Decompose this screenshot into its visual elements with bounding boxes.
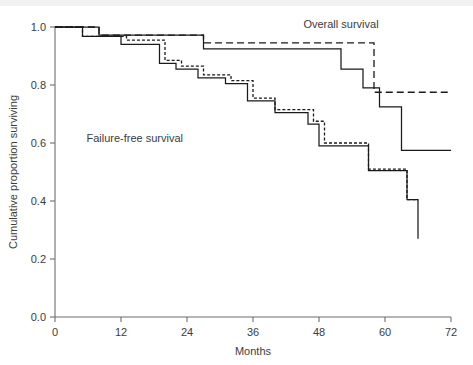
y-tick-label: 0.8: [31, 79, 46, 91]
figure-top-band: [0, 0, 473, 6]
x-tick-label: 12: [115, 326, 127, 338]
x-tick-label: 24: [181, 326, 193, 338]
x-tick-label: 60: [379, 326, 391, 338]
y-tick-label: 0.4: [31, 195, 46, 207]
y-tick-label: 0.2: [31, 253, 46, 265]
x-tick-label: 36: [247, 326, 259, 338]
y-tick-label: 0.0: [31, 311, 46, 323]
x-tick-label: 0: [52, 326, 58, 338]
x-axis-title: Months: [235, 345, 272, 357]
overall-survival-label: Overall survival: [303, 18, 378, 30]
series-line-failure-free-dashed: [55, 27, 418, 200]
y-tick-label: 0.6: [31, 137, 46, 149]
y-tick-label: 1.0: [31, 21, 46, 33]
survival-chart-figure: 0.00.20.40.60.81.00122436486072MonthsCum…: [0, 0, 473, 365]
kaplan-meier-plot: 0.00.20.40.60.81.00122436486072MonthsCum…: [0, 0, 473, 365]
y-axis-title: Cumulative proportion surviving: [7, 95, 19, 249]
x-tick-label: 72: [445, 326, 457, 338]
x-tick-label: 48: [313, 326, 325, 338]
failure-free-survival-label: Failure-free survival: [86, 132, 183, 144]
